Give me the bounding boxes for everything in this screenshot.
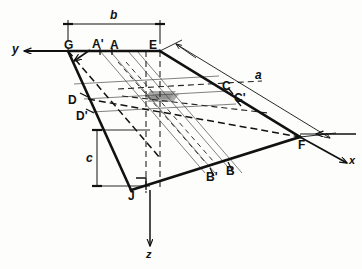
x-axis-line xyxy=(300,134,356,163)
diagram-canvas: y x z b c a G E F J A' A C C' D D' B' B xyxy=(0,0,362,269)
vertex-J-label: J xyxy=(128,190,135,202)
point-C-label: C xyxy=(222,80,231,92)
point-A-label: A xyxy=(110,39,119,51)
z-axis-label: z xyxy=(146,249,152,260)
point-D-label: D xyxy=(68,94,77,106)
vertex-F-label: F xyxy=(298,139,305,151)
dimension-a-label: a xyxy=(255,69,262,81)
plate-outline xyxy=(68,51,300,190)
diagram-svg xyxy=(0,0,362,269)
point-B-label: B xyxy=(226,165,235,177)
vertex-E-label: E xyxy=(149,39,157,51)
point-C-prime-label: C' xyxy=(234,92,246,104)
point-B-prime-label: B' xyxy=(206,171,218,183)
y-axis-label: y xyxy=(12,43,19,55)
dimension-c-label: c xyxy=(86,152,93,164)
point-A-prime-label: A' xyxy=(92,38,104,50)
dimension-a-line xyxy=(160,40,336,138)
x-axis-label: x xyxy=(349,155,355,166)
dimension-b-label: b xyxy=(110,9,117,21)
vertex-G-label: G xyxy=(64,39,73,51)
point-D-prime-label: D' xyxy=(76,110,88,122)
